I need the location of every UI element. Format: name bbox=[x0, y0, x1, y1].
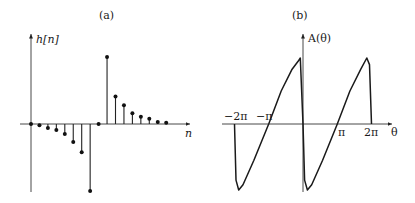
stem-marker bbox=[63, 132, 67, 136]
stem-marker bbox=[88, 189, 92, 193]
panel-a-xlabel: n bbox=[185, 128, 192, 139]
stem-marker bbox=[29, 122, 33, 126]
stem-marker bbox=[156, 120, 160, 124]
stem-marker bbox=[122, 103, 126, 107]
figure-canvas bbox=[0, 0, 415, 203]
stem-marker bbox=[139, 115, 143, 119]
stem-marker bbox=[114, 95, 118, 99]
stem-marker bbox=[71, 140, 75, 144]
stem-marker bbox=[130, 111, 134, 115]
tick-label-2pi: 2π bbox=[364, 127, 378, 138]
stem-marker bbox=[46, 126, 50, 130]
panel-a-axes bbox=[20, 34, 190, 192]
panel-b-title: (b) bbox=[292, 10, 308, 21]
stem-marker bbox=[105, 55, 109, 59]
stem-marker bbox=[164, 121, 168, 125]
stem-marker bbox=[97, 122, 101, 126]
stem-marker bbox=[147, 117, 151, 121]
tick-label-pi: π bbox=[338, 127, 345, 138]
stem-marker bbox=[54, 128, 58, 132]
tick-label-minus-2pi: −2π bbox=[224, 111, 247, 122]
panel-a-title: (a) bbox=[99, 10, 114, 21]
tick-label-minus-pi: −π bbox=[256, 111, 272, 122]
stem-marker bbox=[80, 150, 84, 154]
panel-b-ylabel: A(θ) bbox=[308, 33, 331, 44]
stem-marker bbox=[37, 123, 41, 127]
panel-b-xlabel: θ bbox=[391, 127, 398, 138]
panel-a-ylabel: h[n] bbox=[36, 34, 59, 45]
